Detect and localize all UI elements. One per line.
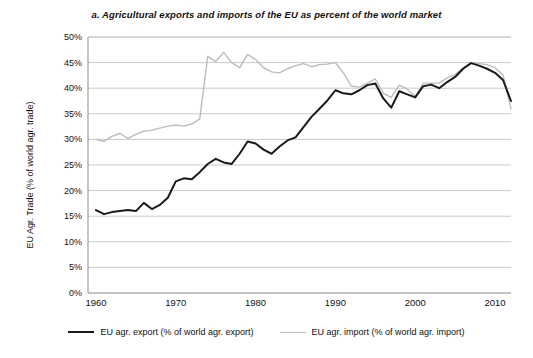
x-tick-label: 2010 — [473, 297, 517, 308]
legend-line-import-icon — [280, 332, 306, 333]
y-tick-label: 40% — [42, 83, 82, 93]
x-tick-label: 2000 — [393, 297, 437, 308]
y-tick-label: 5% — [42, 262, 82, 272]
chart-figure: a. Agricultural exports and imports of t… — [0, 0, 533, 358]
y-tick-label: 35% — [42, 109, 82, 119]
y-tick-label: 30% — [42, 134, 82, 144]
legend-label-import: EU agr. import (% of world agr. import) — [312, 327, 465, 337]
y-tick-label: 20% — [42, 186, 82, 196]
x-tick-label: 1970 — [154, 297, 198, 308]
x-tick-label: 1960 — [74, 297, 118, 308]
plot-area: EU Agr. Trade (% of world agr. trade) 0%… — [0, 0, 533, 315]
legend-item-import: EU agr. import (% of world agr. import) — [280, 327, 465, 337]
y-tick-label: 10% — [42, 237, 82, 247]
y-tick-label: 15% — [42, 211, 82, 221]
legend-line-export-icon — [68, 331, 94, 333]
y-tick-label: 45% — [42, 58, 82, 68]
y-tick-label: 25% — [42, 160, 82, 170]
legend-item-export: EU agr. export (% of world agr. export) — [68, 327, 253, 337]
y-axis-title-text: EU Agr. Trade (% of world agr. trade) — [25, 101, 35, 248]
series-line-export — [96, 63, 511, 214]
chart-legend: EU agr. export (% of world agr. export) … — [0, 327, 533, 337]
x-tick-label: 1990 — [313, 297, 357, 308]
legend-label-export: EU agr. export (% of world agr. export) — [100, 327, 253, 337]
y-axis-title: EU Agr. Trade (% of world agr. trade) — [22, 60, 38, 290]
y-tick-label: 50% — [42, 32, 82, 42]
x-tick-label: 1980 — [234, 297, 278, 308]
